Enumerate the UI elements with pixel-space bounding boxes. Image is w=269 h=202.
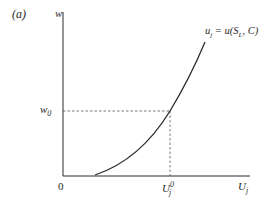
origin-label: 0 xyxy=(58,181,64,192)
panel-label: (a) xyxy=(12,8,26,20)
y-axis-label: w xyxy=(55,8,62,19)
w0-label: w0 xyxy=(40,104,51,118)
uj0-label: U0j xyxy=(162,181,171,197)
utility-curve xyxy=(95,42,205,175)
x-axis-label: Uj xyxy=(238,181,248,195)
curve-label: uj = u(SL, C) xyxy=(205,26,258,39)
